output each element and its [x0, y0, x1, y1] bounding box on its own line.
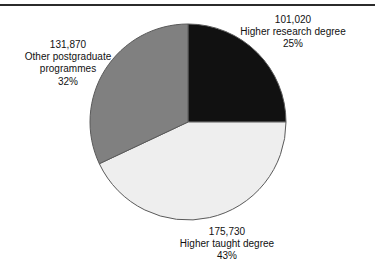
pie-label-value: 175,730 [151, 226, 303, 238]
pie-label-name: Higher research degree [217, 26, 369, 38]
pie-label-value: 131,870 [4, 39, 132, 51]
pie-label-name-line2: programmes [4, 63, 132, 75]
pie-chart-figure: 101,020 Higher research degree 25% 131,8… [0, 0, 375, 267]
pie-label-other-postgraduate-programmes: 131,870 Other postgraduate programmes 32… [4, 39, 132, 88]
pie-label-value: 101,020 [217, 14, 369, 26]
top-border-rule [0, 4, 375, 6]
pie-label-percent: 25% [217, 38, 369, 50]
pie-label-name: Higher taught degree [151, 238, 303, 250]
pie-label-higher-taught-degree: 175,730 Higher taught degree 43% [151, 226, 303, 263]
pie-label-higher-research-degree: 101,020 Higher research degree 25% [217, 14, 369, 51]
pie-label-name-line1: Other postgraduate [4, 51, 132, 63]
pie-label-percent: 43% [151, 250, 303, 262]
pie-label-percent: 32% [4, 76, 132, 88]
